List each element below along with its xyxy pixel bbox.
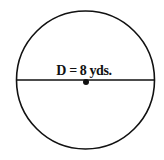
diameter-label: D = 8 yds. — [56, 63, 111, 78]
circle-diagram: D = 8 yds. — [0, 0, 164, 160]
center-point — [83, 79, 89, 85]
